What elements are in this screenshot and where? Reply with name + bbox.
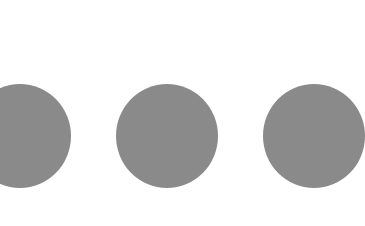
dot-left — [0, 84, 71, 188]
dot-right — [263, 84, 365, 188]
dot-center — [116, 84, 218, 188]
